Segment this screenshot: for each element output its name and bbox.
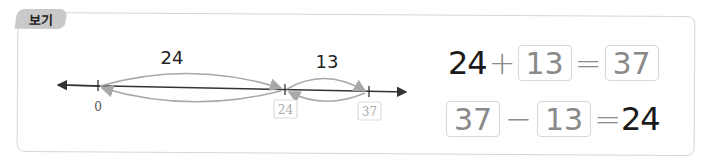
subtraction-equation: 37 − 13 = 24 (446, 100, 660, 138)
return-arc-13 (289, 92, 365, 101)
answer-box-minuend: 37 (446, 101, 500, 137)
answer-box-subtrahend: 13 (537, 101, 591, 137)
difference: 24 (621, 100, 660, 138)
minus-sign: − (505, 100, 532, 138)
answer-box-addend-b: 13 (518, 45, 572, 81)
tick-label-24: 24 (278, 103, 294, 117)
tick-label-0: 0 (94, 100, 102, 114)
number-line-diagram: 24 13 0 24 37 (0, 0, 710, 167)
equals-sign: = (594, 100, 621, 138)
equals-sign: = (575, 44, 602, 82)
jump-label-13: 13 (316, 51, 339, 72)
answer-box-sum: 37 (605, 45, 659, 81)
tick-label-37: 37 (362, 105, 377, 119)
addend-a: 24 (448, 44, 487, 82)
plus-sign: + (489, 44, 516, 82)
jump-arc-13 (287, 78, 365, 91)
addition-equation: 24 + 13 = 37 (448, 44, 659, 82)
jump-label-24: 24 (161, 47, 184, 68)
return-arc-24 (102, 88, 281, 102)
